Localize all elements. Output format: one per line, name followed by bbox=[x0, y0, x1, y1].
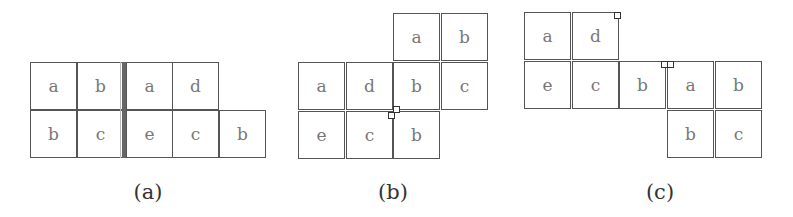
grid-cell: a bbox=[30, 62, 77, 110]
grid-cell: b bbox=[667, 110, 714, 158]
caption-c: (c) bbox=[646, 180, 674, 204]
grid-cell: e bbox=[298, 111, 345, 159]
grid-cell: d bbox=[346, 62, 393, 110]
grid-cell: a bbox=[524, 12, 571, 60]
grid-cell: b bbox=[393, 111, 440, 159]
grid-cell: c bbox=[346, 111, 393, 159]
grid-cell: d bbox=[172, 62, 219, 110]
grid-cell: a bbox=[126, 62, 173, 110]
grid-cell: a bbox=[298, 62, 345, 110]
grid-cell: b bbox=[77, 62, 124, 110]
grid-cell: a bbox=[393, 13, 440, 61]
caption-a: (a) bbox=[134, 180, 163, 204]
grid-cell: b bbox=[715, 61, 762, 109]
grid-cell: c bbox=[715, 110, 762, 158]
grid-cell: d bbox=[572, 12, 619, 60]
seam-double-bar bbox=[122, 62, 126, 158]
grid-cell: b bbox=[441, 13, 488, 61]
grid-cell: b bbox=[393, 62, 440, 110]
grid-cell: c bbox=[172, 110, 219, 158]
grid-cell: c bbox=[572, 61, 619, 109]
grid-cell: b bbox=[619, 61, 666, 109]
grid-cell: a bbox=[667, 61, 714, 109]
seam-thin-line bbox=[120, 62, 121, 158]
grid-cell: c bbox=[441, 62, 488, 110]
grid-cell: c bbox=[77, 110, 124, 158]
grid-cell: b bbox=[30, 110, 77, 158]
corner-marker bbox=[388, 112, 395, 119]
caption-b: (b) bbox=[378, 180, 408, 204]
corner-marker bbox=[614, 12, 621, 19]
grid-cell: e bbox=[524, 61, 571, 109]
corner-marker bbox=[667, 61, 674, 68]
grid-cell: b bbox=[219, 110, 266, 158]
grid-cell: e bbox=[126, 110, 173, 158]
